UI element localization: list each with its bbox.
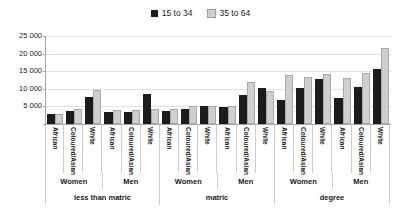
- x-axis-category-cell: African: [45, 125, 64, 173]
- x-axis-category-cell: Coloured/Asian: [294, 125, 313, 173]
- x-axis-category-label: White: [261, 127, 268, 145]
- x-axis-category-cell: African: [333, 125, 352, 173]
- bar-35-to-64-0: [55, 114, 63, 124]
- bar-35-to-64-2: [93, 90, 101, 124]
- bar-chart: 15 to 34 35 to 64 25 00020 00015 00010 0…: [0, 0, 401, 218]
- x-axis-category-label: Coloured/Asian: [70, 127, 77, 171]
- y-axis-tick-label: 10 000: [2, 85, 42, 93]
- x-axis-category-label: African: [338, 127, 345, 149]
- x-axis-group-label: Women: [275, 173, 333, 189]
- bar-15-to-34-7: [181, 109, 189, 124]
- bar-15-to-34-2: [85, 97, 93, 124]
- bar-35-to-64-13: [304, 77, 312, 124]
- bar-35-to-64-9: [228, 106, 236, 124]
- legend-label-1: 35 to 64: [220, 9, 251, 18]
- x-axis-category-cell: Coloured/Asian: [64, 125, 83, 173]
- bar-35-to-64-11: [266, 91, 274, 124]
- bars-layer: [46, 36, 391, 124]
- x-axis-category-label: White: [146, 127, 153, 145]
- x-axis-group-label: Men: [218, 173, 276, 189]
- bar-15-to-34-11: [258, 88, 266, 124]
- light-square-icon: [207, 9, 216, 18]
- x-axis-category-cell: Coloured/Asian: [237, 125, 256, 173]
- bar-35-to-64-3: [113, 110, 121, 124]
- x-axis-category-cell: Coloured/Asian: [352, 125, 371, 173]
- bar-15-to-34-17: [373, 69, 381, 124]
- x-axis-supergroup-labels: less than matricmatricdegree: [45, 189, 390, 205]
- bar-15-to-34-10: [239, 95, 247, 124]
- legend-entry-0[interactable]: 15 to 34: [151, 9, 193, 18]
- x-axis-group-label: Women: [160, 173, 218, 189]
- x-axis-group-label: Men: [103, 173, 161, 189]
- x-axis-supergroup-label: degree: [275, 189, 390, 205]
- bar-35-to-64-16: [362, 73, 370, 124]
- x-axis-category-cell: White: [313, 125, 332, 173]
- bar-15-to-34-5: [143, 94, 151, 124]
- bar-15-to-34-16: [354, 87, 362, 124]
- x-axis-category-cell: African: [218, 125, 237, 173]
- y-axis-tick-label: 25 000: [2, 32, 42, 40]
- bar-35-to-64-6: [170, 109, 178, 124]
- x-axis-supergroup-label: matric: [160, 189, 275, 205]
- bar-35-to-64-15: [343, 78, 351, 124]
- x-axis-category-cell: White: [141, 125, 160, 173]
- x-axis-supergroup-label: less than matric: [45, 189, 160, 205]
- y-axis-tick-label: 20 000: [2, 50, 42, 58]
- y-axis-tick-label: 5 000: [2, 103, 42, 111]
- x-axis-category-label: White: [204, 127, 211, 145]
- bar-35-to-64-10: [247, 82, 255, 124]
- x-axis-category-cell: African: [103, 125, 122, 173]
- x-axis-category-label: African: [51, 127, 58, 149]
- bar-35-to-64-4: [132, 110, 140, 124]
- x-axis-category-label: Coloured/Asian: [357, 127, 364, 171]
- x-axis-category-cell: White: [256, 125, 275, 173]
- bar-15-to-34-13: [296, 88, 304, 124]
- bar-35-to-64-7: [189, 106, 197, 124]
- x-axis-category-cell: Coloured/Asian: [122, 125, 141, 173]
- x-axis-category-cell: White: [371, 125, 390, 173]
- bar-35-to-64-1: [74, 109, 82, 124]
- x-axis-category-label: African: [223, 127, 230, 149]
- chart-legend: 15 to 34 35 to 64: [0, 6, 401, 20]
- bar-35-to-64-12: [285, 75, 293, 124]
- x-axis-group-labels: WomenMenWomenMenWomenMen: [45, 173, 390, 189]
- bar-15-to-34-15: [334, 98, 342, 124]
- y-axis-labels: 25 00020 00015 00010 0005 000: [0, 36, 42, 124]
- legend-entry-1[interactable]: 35 to 64: [207, 9, 251, 18]
- bar-15-to-34-8: [200, 106, 208, 124]
- bar-35-to-64-5: [151, 109, 159, 124]
- bar-35-to-64-17: [381, 48, 389, 124]
- x-axis-category-cell: White: [198, 125, 217, 173]
- x-axis-category-cell: African: [275, 125, 294, 173]
- x-axis-category-label: Coloured/Asian: [185, 127, 192, 171]
- bar-15-to-34-6: [162, 111, 170, 124]
- bar-15-to-34-4: [124, 112, 132, 124]
- x-axis-category-label: White: [376, 127, 383, 145]
- x-axis-category-label: White: [89, 127, 96, 145]
- x-axis-category-label: Coloured/Asian: [127, 127, 134, 171]
- x-axis-category-label: African: [108, 127, 115, 149]
- plot-area: [45, 36, 391, 124]
- x-axis-category-label: Coloured/Asian: [300, 127, 307, 171]
- x-axis-category-label: African: [166, 127, 173, 149]
- bar-15-to-34-0: [47, 114, 55, 124]
- x-axis-category-cell: African: [160, 125, 179, 173]
- bar-15-to-34-1: [66, 111, 74, 124]
- bar-15-to-34-3: [104, 112, 112, 124]
- dark-square-icon: [151, 10, 158, 17]
- bar-15-to-34-9: [219, 107, 227, 124]
- x-axis-category-cell: White: [83, 125, 102, 173]
- y-axis-tick-label: 15 000: [2, 67, 42, 75]
- bar-15-to-34-14: [315, 79, 323, 124]
- x-axis-category-labels: AfricanColoured/AsianWhiteAfricanColoure…: [45, 125, 390, 173]
- bar-35-to-64-14: [323, 74, 331, 124]
- x-axis-group-label: Women: [45, 173, 103, 189]
- x-axis-category-label: African: [281, 127, 288, 149]
- bar-15-to-34-12: [277, 100, 285, 124]
- x-axis-category-cell: Coloured/Asian: [179, 125, 198, 173]
- x-axis-group-label: Men: [333, 173, 391, 189]
- bar-35-to-64-8: [208, 106, 216, 124]
- legend-label-0: 15 to 34: [162, 9, 193, 18]
- x-axis-category-label: Coloured/Asian: [242, 127, 249, 171]
- x-axis-category-label: White: [319, 127, 326, 145]
